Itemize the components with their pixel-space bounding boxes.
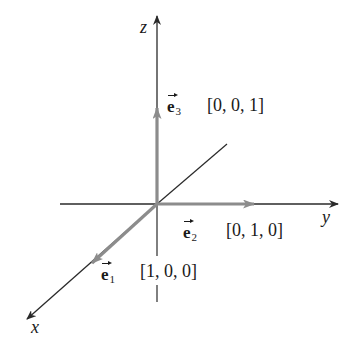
e2-coords: [0, 1, 0] — [226, 221, 283, 239]
y-axis-label: y — [322, 208, 330, 226]
vector-arrow-icon: e — [167, 98, 175, 115]
e1-coords: [1, 0, 0] — [140, 262, 197, 280]
vector-arrow-icon: e — [101, 266, 109, 283]
axes-canvas — [0, 0, 355, 339]
e1-label: e1 — [101, 266, 115, 285]
vector-arrow-icon: e — [183, 224, 191, 241]
e3-coords: [0, 0, 1] — [207, 96, 264, 114]
e2-label: e2 — [183, 224, 197, 243]
x-axis-label: x — [31, 318, 39, 336]
z-axis-label: z — [140, 18, 147, 36]
e3-label: e3 — [167, 98, 181, 117]
e1-vector — [92, 204, 157, 263]
x-axis-negative — [157, 144, 227, 204]
basis-vectors-diagram: z y x e3 [0, 0, 1] e2 [0, 1, 0] e1 [1, 0… — [0, 0, 355, 339]
